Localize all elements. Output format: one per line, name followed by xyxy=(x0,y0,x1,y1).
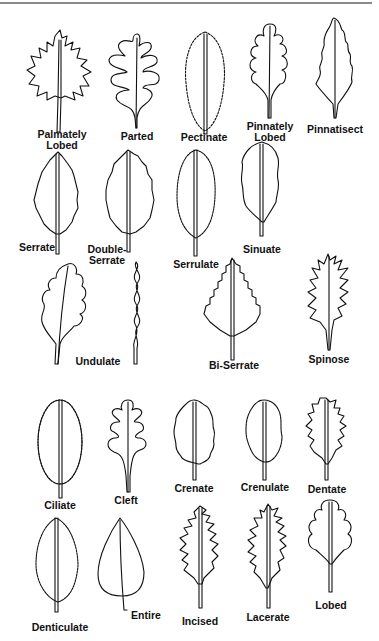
label-cleft: Cleft xyxy=(106,495,146,506)
cleft-leaf-icon xyxy=(100,398,156,498)
label-ciliate: Ciliate xyxy=(36,500,84,511)
bi-serrate-leaf-icon xyxy=(202,256,268,366)
label-pinnatisect: Pinnatisect xyxy=(302,124,368,135)
label-sinuate: Sinuate xyxy=(236,244,288,255)
parted-leaf-icon xyxy=(103,32,163,132)
lacerate-leaf-icon xyxy=(242,502,294,612)
label-pectinate: Pectinate xyxy=(178,132,230,143)
label-entire: Entire xyxy=(126,610,166,621)
crenate-leaf-icon xyxy=(170,398,220,488)
dentate-leaf-icon xyxy=(300,396,354,486)
label-dentate: Dentate xyxy=(300,484,354,495)
label-lobed: Lobed xyxy=(306,600,356,611)
denticulate-leaf-icon xyxy=(30,516,86,616)
crenulate-leaf-icon xyxy=(240,398,290,488)
label-incised: Incised xyxy=(172,616,228,627)
pinnatisect-leaf-icon xyxy=(310,16,360,126)
label-spinose: Spinose xyxy=(304,354,354,365)
label-serrate: Serrate xyxy=(14,242,60,253)
label-lacerate: Lacerate xyxy=(240,612,296,623)
pinnately-lobed-leaf-icon xyxy=(244,22,294,122)
lobed-leaf-icon xyxy=(304,498,358,598)
undulate-leaf-icon xyxy=(38,260,98,370)
entire-leaf-icon xyxy=(96,516,152,616)
label-parted: Parted xyxy=(117,131,157,142)
top-border-line xyxy=(0,2,372,4)
label-undulate: Undulate xyxy=(70,356,126,367)
pectinate-leaf-icon xyxy=(180,28,230,138)
label-crenate: Crenate xyxy=(168,483,220,494)
ciliate-leaf-icon xyxy=(32,398,88,508)
label-crenulate: Crenulate xyxy=(236,482,294,493)
sinuate-leaf-icon xyxy=(236,140,286,240)
spinose-leaf-icon xyxy=(304,250,354,360)
serrulate-leaf-icon xyxy=(172,146,222,258)
label-bi-serrate: Bi-Serrate xyxy=(202,360,266,371)
incised-leaf-icon xyxy=(174,504,226,614)
label-denticulate: Denticulate xyxy=(28,622,92,633)
undulate-side-view-leaf-icon xyxy=(126,260,146,370)
